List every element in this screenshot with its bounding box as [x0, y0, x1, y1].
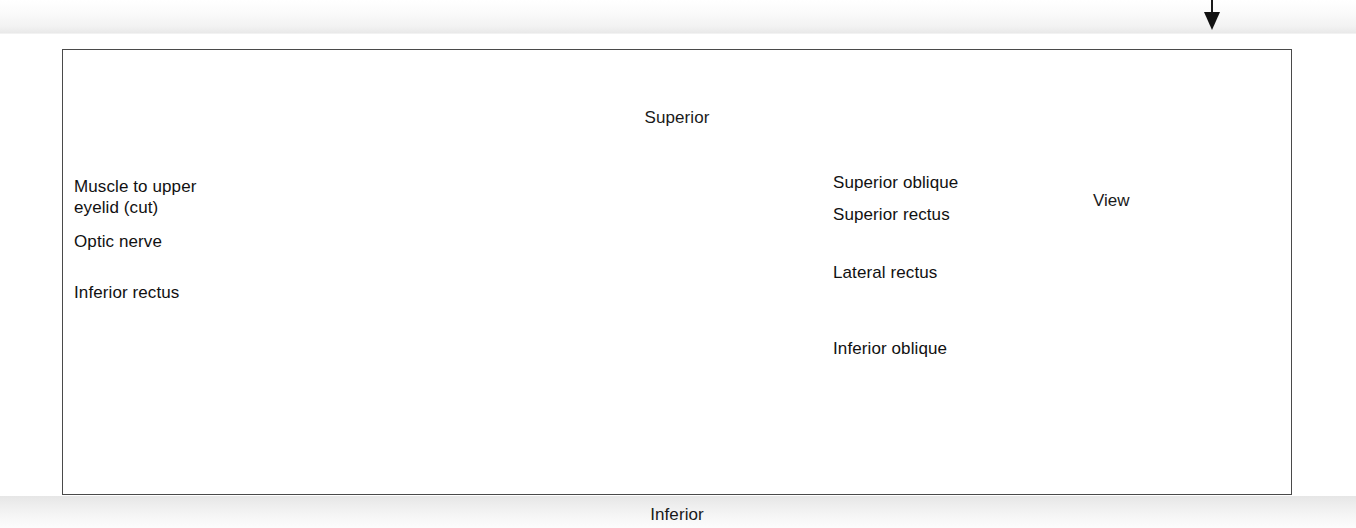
callout-line-1: Inferior rectus: [74, 282, 179, 303]
callout-superior-oblique: Superior oblique: [833, 172, 958, 193]
view-label: View: [1093, 191, 1130, 211]
inferior-orientation-label: Inferior: [63, 505, 1291, 525]
callout-inferior-rectus: Inferior rectus: [74, 282, 179, 303]
superior-orientation-label: Superior: [63, 108, 1291, 128]
callout-line-2: eyelid (cut): [74, 197, 196, 218]
callout-muscle-to-upper-eyelid: Muscle to upper eyelid (cut): [74, 176, 196, 218]
callout-optic-nerve: Optic nerve: [74, 231, 162, 252]
figure-frame-border: Superior Inferior: [62, 49, 1292, 495]
callout-line-1: Optic nerve: [74, 231, 162, 252]
callout-superior-rectus: Superior rectus: [833, 204, 950, 225]
callout-inferior-oblique: Inferior oblique: [833, 338, 947, 359]
callout-line-1: Muscle to upper: [74, 176, 196, 197]
callout-lateral-rectus: Lateral rectus: [833, 262, 937, 283]
down-arrow-icon: [1204, 0, 1220, 30]
